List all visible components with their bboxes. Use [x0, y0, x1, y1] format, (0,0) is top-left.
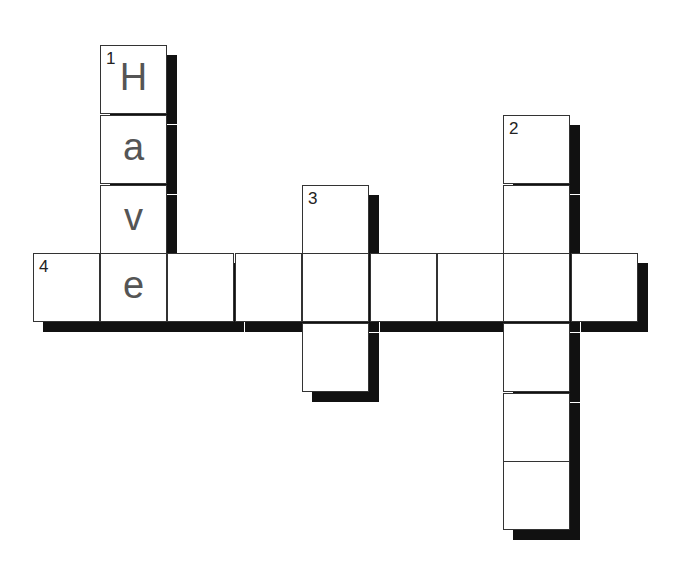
cell-letter: v [101, 196, 166, 239]
crossword-cell[interactable] [571, 253, 638, 322]
crossword-cell[interactable]: 4 [33, 253, 100, 322]
clue-number: 3 [308, 189, 317, 209]
crossword-cell[interactable] [503, 461, 570, 530]
crossword-cell[interactable] [503, 323, 570, 392]
crossword-cell[interactable]: a [100, 115, 167, 184]
crossword-cell[interactable]: 3 [302, 185, 369, 254]
cell-letter: a [101, 126, 166, 169]
crossword-cell[interactable]: e [100, 253, 167, 322]
cell-letter: e [101, 264, 166, 307]
crossword-cell[interactable] [370, 253, 437, 322]
crossword-cell[interactable] [167, 253, 234, 322]
crossword-cell[interactable]: 1H [100, 45, 167, 114]
crossword-cell[interactable] [235, 253, 302, 322]
crossword-cell[interactable] [437, 253, 504, 322]
crossword-cell[interactable]: v [100, 185, 167, 254]
crossword-cell[interactable] [503, 185, 570, 254]
crossword-cell[interactable] [503, 253, 570, 322]
crossword-cell[interactable]: 2 [503, 115, 570, 184]
crossword-cell[interactable] [302, 323, 369, 392]
clue-number: 4 [39, 257, 48, 277]
cell-letter: H [101, 56, 166, 99]
crossword-cell[interactable] [302, 253, 369, 322]
crossword-cell[interactable] [503, 393, 570, 462]
clue-number: 2 [509, 119, 518, 139]
